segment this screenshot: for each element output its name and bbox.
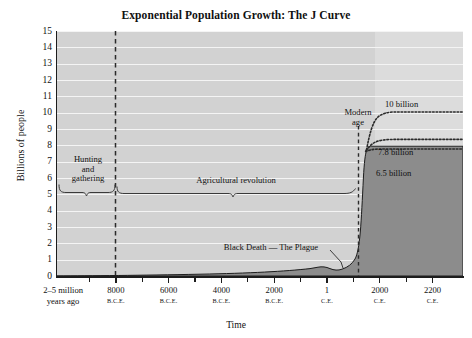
hunting-line-1: Hunting [74, 154, 102, 164]
agricultural-brace [117, 187, 356, 198]
annotation-10-billion: 10 billion [385, 100, 447, 110]
annotation-6.5-billion: 6.5 billion [376, 169, 438, 179]
hunting-brace [59, 185, 115, 197]
annotation-hunting-gathering: Hunting and gathering [60, 155, 116, 184]
annotation-black-death: Black Death — The Plague [196, 243, 346, 253]
annotation-agricultural-revolution: Agricultural revolution [176, 176, 296, 186]
modern-line-2: age [352, 117, 364, 127]
modern-line-1: Modern [344, 107, 371, 117]
annotation-modern-age: Modern age [336, 108, 380, 127]
population-area-path [57, 146, 463, 276]
hunting-line-3: gathering [72, 173, 104, 183]
projection-10-billion-path [367, 112, 464, 150]
annotation-7.8-billion: 7.8 billion [378, 148, 440, 158]
population-growth-chart: Exponential Population Growth: The J Cur… [0, 0, 472, 338]
hunting-line-2: and [82, 164, 94, 174]
black-death-pointer [330, 250, 343, 268]
